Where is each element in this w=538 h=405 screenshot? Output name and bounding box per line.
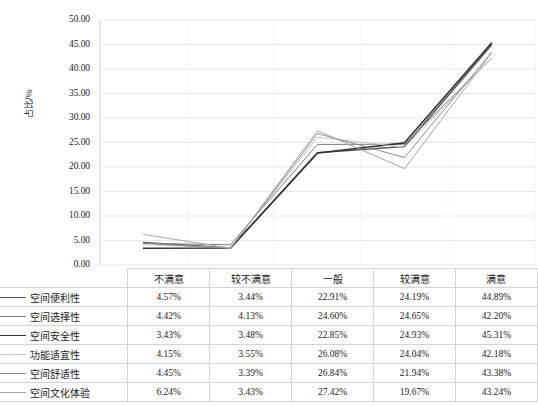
table-row: 空间便利性4.57%3.44%22.91%24.19%44.89% xyxy=(0,288,538,307)
table-row: 空间舒适性4.45%3.39%26.84%21.94%43.38% xyxy=(0,364,538,383)
table-cell-r4-c2: 26.84% xyxy=(292,364,374,383)
table-cell-r2-c0: 3.43% xyxy=(128,326,210,345)
table-cell-r0-c4: 44.89% xyxy=(455,288,537,307)
legend-item-5[interactable]: 空间文化体验 xyxy=(0,383,128,402)
legend-label: 空间文化体验 xyxy=(30,385,90,400)
table-cell-r4-c3: 21.94% xyxy=(374,364,456,383)
table-cell-r5-c2: 27.42% xyxy=(292,383,374,402)
table-row: 空间文化体验6.24%3.43%27.42%19.67%43.24% xyxy=(0,383,538,402)
table-header-3: 较满意 xyxy=(374,269,456,288)
table-header-blank xyxy=(0,269,128,288)
series-line-5 xyxy=(144,53,492,248)
table-cell-r5-c0: 6.24% xyxy=(128,383,210,402)
table-cell-r4-c0: 4.45% xyxy=(128,364,210,383)
legend-line-swatch-icon xyxy=(0,373,26,374)
table-cell-r3-c3: 24.04% xyxy=(374,345,456,364)
series-line-4 xyxy=(144,52,492,248)
chart-container: 占比/% 50.0045.0040.0035.0030.0025.0020.00… xyxy=(0,0,538,268)
legend-item-2[interactable]: 空间安全性 xyxy=(0,326,128,345)
table-header-2: 一般 xyxy=(292,269,374,288)
legend-item-4[interactable]: 空间舒适性 xyxy=(0,364,128,383)
legend-label: 空间安全性 xyxy=(30,328,80,343)
table-row: 空间安全性3.43%3.48%22.85%24.93%45.31% xyxy=(0,326,538,345)
table-cell-r0-c3: 24.19% xyxy=(374,288,456,307)
table-body: 空间便利性4.57%3.44%22.91%24.19%44.89%空间选择性4.… xyxy=(0,288,538,402)
table-cell-r1-c3: 24.65% xyxy=(374,307,456,326)
legend-item-0[interactable]: 空间便利性 xyxy=(0,288,128,307)
table-cell-r3-c2: 26.08% xyxy=(292,345,374,364)
table-cell-r2-c4: 45.31% xyxy=(455,326,537,345)
table-header-1: 较不满意 xyxy=(210,269,292,288)
table-cell-r1-c0: 4.42% xyxy=(128,307,210,326)
legend-label: 空间便利性 xyxy=(30,290,80,305)
line-chart-plot xyxy=(0,0,538,268)
legend-line-swatch-icon xyxy=(0,316,26,317)
table-row: 空间选择性4.42%4.13%24.60%24.65%42.20% xyxy=(0,307,538,326)
table-cell-r3-c1: 3.55% xyxy=(210,345,292,364)
table-cell-r2-c1: 3.48% xyxy=(210,326,292,345)
legend-line-swatch-icon xyxy=(0,392,26,393)
table-cell-r4-c1: 3.39% xyxy=(210,364,292,383)
table-header-0: 不满意 xyxy=(128,269,210,288)
table-row: 功能适宜性4.15%3.55%26.08%24.04%42.18% xyxy=(0,345,538,364)
legend-line-swatch-icon xyxy=(0,354,26,355)
legend-label: 空间选择性 xyxy=(30,309,80,324)
table-cell-r3-c0: 4.15% xyxy=(128,345,210,364)
legend-item-3[interactable]: 功能适宜性 xyxy=(0,345,128,364)
table-cell-r0-c0: 4.57% xyxy=(128,288,210,307)
table-cell-r2-c3: 24.93% xyxy=(374,326,456,345)
table-cell-r4-c4: 43.38% xyxy=(455,364,537,383)
table-cell-r5-c3: 19.67% xyxy=(374,383,456,402)
legend-label: 空间舒适性 xyxy=(30,366,80,381)
table-cell-r5-c1: 3.43% xyxy=(210,383,292,402)
legend-label: 功能适宜性 xyxy=(30,347,80,362)
table-cell-r1-c4: 42.20% xyxy=(455,307,537,326)
data-table: 不满意较不满意一般较满意满意 空间便利性4.57%3.44%22.91%24.1… xyxy=(0,268,538,402)
table-cell-r1-c1: 4.13% xyxy=(210,307,292,326)
table-cell-r5-c4: 43.24% xyxy=(455,383,537,402)
series-line-2 xyxy=(144,43,492,248)
table-cell-r1-c2: 24.60% xyxy=(292,307,374,326)
series-line-0 xyxy=(144,45,492,248)
series-line-1 xyxy=(144,58,492,245)
legend-line-swatch-icon xyxy=(0,297,26,298)
table-header-4: 满意 xyxy=(455,269,537,288)
table-cell-r0-c2: 22.91% xyxy=(292,288,374,307)
table-cell-r0-c1: 3.44% xyxy=(210,288,292,307)
legend-item-1[interactable]: 空间选择性 xyxy=(0,307,128,326)
table-cell-r2-c2: 22.85% xyxy=(292,326,374,345)
table-header-row: 不满意较不满意一般较满意满意 xyxy=(0,269,538,288)
legend-line-swatch-icon xyxy=(0,335,26,336)
table-cell-r3-c4: 42.18% xyxy=(455,345,537,364)
